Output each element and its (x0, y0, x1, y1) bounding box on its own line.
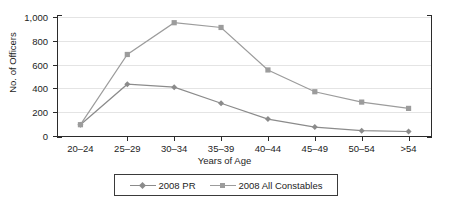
data-point-square (406, 106, 411, 111)
series-line-1 (80, 23, 408, 125)
data-point-diamond (265, 116, 271, 122)
series-line-0 (80, 84, 408, 131)
data-point-diamond (218, 100, 224, 106)
data-point-square (265, 67, 270, 72)
data-point-diamond (406, 128, 412, 134)
series-layer (0, 0, 449, 211)
data-point-diamond (171, 84, 177, 90)
data-point-square (312, 89, 317, 94)
data-point-diamond (359, 128, 365, 134)
data-point-diamond (312, 124, 318, 130)
data-point-square (172, 20, 177, 25)
data-point-square (218, 25, 223, 30)
data-point-square (359, 99, 364, 104)
data-point-square (78, 122, 83, 127)
line-chart: 02004006008001,000 No. of Officers Years… (0, 0, 449, 211)
data-point-square (125, 52, 130, 57)
